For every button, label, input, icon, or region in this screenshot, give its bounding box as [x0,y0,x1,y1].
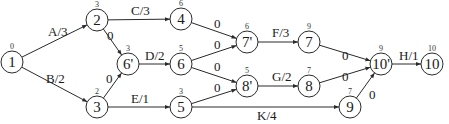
node-label: 7 [305,34,313,50]
node-time: 5 [179,44,183,53]
edge-label: 0 [342,48,349,63]
edge-label: 0 [214,59,221,74]
edge-label: 0 [214,37,221,52]
node-time: 10 [428,44,436,53]
node-n2: 23 [86,0,108,31]
node-time: 3 [126,44,130,53]
edge-label: 0 [214,16,221,31]
node-label: 8' [242,78,253,94]
edge-label: A/3 [48,24,68,39]
node-label: 1 [8,54,16,70]
node-time: 5 [245,66,249,75]
node-label: 10' [372,56,390,72]
node-n6p: 6'3 [117,44,139,75]
node-time: 2 [95,87,99,96]
edge-label: 0 [106,71,113,86]
node-n7p: 7'6 [236,22,258,53]
node-label: 6 [177,56,185,72]
node-n3: 32 [86,87,108,118]
node-n5: 53 [170,87,192,118]
node-n8p: 8'5 [236,66,258,97]
edge-label: 0 [107,28,114,43]
edge-label: 0 [214,80,221,95]
node-n10: 1010 [421,44,443,75]
nodes-layer: 1023326'34665537'68'579879710'91010 [1,0,443,118]
node-time: 7 [307,66,311,75]
edge-label: G/2 [272,69,292,84]
node-time: 3 [179,87,183,96]
edge-label: D/2 [145,48,165,63]
edge-label: F/3 [272,25,289,40]
node-label: 10 [425,56,440,72]
node-time: 6 [179,0,183,8]
node-label: 3 [93,99,101,115]
node-time: 7 [348,87,352,96]
node-time: 9 [307,22,311,31]
edge-n2-n4 [108,19,170,20]
edge-label: 0 [369,87,376,102]
node-label: 4 [177,11,185,27]
node-n8: 87 [298,66,320,97]
diagram-svg: A/3B/200C/3D/2E/10000F/3G/2K/4000H/1 102… [0,0,449,124]
edge-label: B/2 [46,71,65,86]
node-n1: 10 [1,42,23,73]
node-label: 5 [177,99,185,115]
node-n10p: 10'9 [370,44,392,75]
edge-label: 0 [342,69,349,84]
edge-label: H/1 [399,48,419,63]
node-label: 6' [123,56,134,72]
node-label: 8 [305,78,313,94]
node-n4: 46 [170,0,192,30]
edge-label: K/4 [257,108,277,123]
node-time: 3 [95,0,99,9]
node-time: 0 [10,42,14,51]
node-label: 2 [93,12,101,28]
node-n6: 65 [170,44,192,75]
node-n9: 97 [339,87,361,118]
node-time: 9 [379,44,383,53]
node-label: 7' [242,34,253,50]
node-time: 6 [245,22,249,31]
edge-label: E/1 [131,91,149,106]
node-label: 9 [346,99,354,115]
edge-label: C/3 [131,3,150,18]
network-diagram: A/3B/200C/3D/2E/10000F/3G/2K/4000H/1 102… [0,0,449,124]
node-n7: 79 [298,22,320,53]
